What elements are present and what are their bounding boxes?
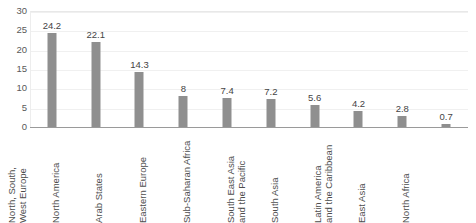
x-axis-category-label: South East Asiaand the Pacific (225, 39, 247, 131)
x-axis-category-label-line: North, South, (6, 131, 17, 223)
x-axis-category-label: East Asia (356, 39, 367, 131)
x-axis-category-label-line: North Africa (400, 131, 411, 223)
y-axis-tick-label: 30 (3, 6, 27, 16)
x-axis-category-label: North Africa (400, 39, 411, 131)
x-axis-category-label: Sub-Saharan Africa (181, 39, 192, 131)
bar[interactable] (442, 124, 451, 127)
bars-layer: 24.2North, South,West Europe22.1North Am… (30, 0, 468, 223)
bar-value-label: 0.7 (439, 112, 452, 122)
x-axis-category-label: North, South,West Europe (6, 39, 28, 131)
x-axis-category-label-line: East Asia (356, 131, 367, 223)
x-axis-category-label-line: Eastern Europe (137, 131, 148, 223)
x-axis-category-label-line: South East Asia (225, 131, 236, 223)
x-axis-category-label-line: and the Caribbean (323, 131, 334, 223)
x-axis-category-label: South Asia (269, 39, 280, 131)
x-axis-category-label: Latin Americaand the Caribbean (312, 39, 334, 131)
x-axis-category-label-line: Arab States (93, 131, 104, 223)
x-axis-category-label-line: and the Pacific (236, 131, 247, 223)
x-axis-category-label: Eastern Europe (137, 39, 148, 131)
bar-group: 0.7North Africa (424, 0, 468, 223)
x-axis-category-label-line: South Asia (269, 131, 280, 223)
y-axis-tick-label: 25 (3, 26, 27, 36)
x-axis-category-label-line: Sub-Saharan Africa (181, 131, 192, 223)
x-axis-category-label: North America (50, 39, 61, 131)
x-axis-category-label: Arab States (93, 39, 104, 131)
bar-value-label: 22.1 (86, 30, 105, 40)
bar-chart: 051015202530 24.2North, South,West Europ… (0, 0, 476, 223)
x-axis-category-label-line: Latin America (312, 131, 323, 223)
x-axis-category-label-line: West Europe (17, 131, 28, 223)
bar-value-label: 24.2 (43, 21, 62, 31)
x-axis-category-label-line: North America (50, 131, 61, 223)
